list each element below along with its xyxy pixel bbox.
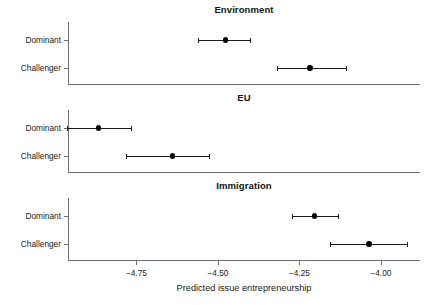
ci-cap-lower [126,154,127,159]
ci-cap-lower [277,66,278,71]
ci-cap-lower [198,38,199,43]
ci-cap-upper [338,214,339,219]
panel-environment: Environment DominantChallenger [0,4,428,92]
y-axis-label-dominant: Dominant [25,211,61,221]
confidence-interval-line [126,156,209,157]
panel-immigration: Immigration DominantChallenger [0,180,428,268]
plot-area-environment: DominantChallenger [68,22,420,84]
y-axis-line [68,110,69,172]
plot-area-eu: DominantChallenger [68,110,420,172]
y-axis-label-dominant: Dominant [25,123,61,133]
ci-cap-upper [407,242,408,247]
y-axis-tick [64,244,68,245]
y-axis-line [68,198,69,260]
ci-cap-lower [67,126,68,131]
x-axis-tick-label: −4.50 [207,268,228,278]
y-axis-label-dominant: Dominant [25,35,61,45]
ci-cap-lower [292,214,293,219]
estimate-point [307,65,313,71]
forest-plot-figure: Environment DominantChallenger EU Domina… [0,0,428,305]
x-axis-tick [299,261,300,265]
estimate-point [96,125,102,131]
x-axis-tick [218,261,219,265]
y-axis-label-challenger: Challenger [21,239,61,249]
ci-cap-upper [346,66,347,71]
estimate-point [223,37,229,43]
x-axis-tick [381,261,382,265]
y-axis-tick [64,68,68,69]
x-axis-tick-label: −4.00 [370,268,391,278]
x-axis-title: Predicted issue entrepreneurship [68,283,420,293]
y-axis-tick [64,216,68,217]
panel-eu: EU DominantChallenger [0,92,428,180]
ci-cap-upper [209,154,210,159]
y-axis-label-challenger: Challenger [21,151,61,161]
panel-title-eu: EU [68,92,420,103]
y-axis-label-challenger: Challenger [21,63,61,73]
estimate-point [366,241,372,247]
panel-baseline [68,260,420,261]
plot-area-immigration: DominantChallenger [68,198,420,260]
ci-cap-lower [330,242,331,247]
ci-cap-upper [250,38,251,43]
estimate-point [312,213,318,219]
panel-title-environment: Environment [68,4,420,15]
y-axis-tick [64,40,68,41]
panel-title-immigration: Immigration [68,180,420,191]
estimate-point [170,153,176,159]
panel-baseline [68,172,420,173]
x-axis-tick [136,261,137,265]
x-axis-tick-label: −4.25 [289,268,310,278]
y-axis-tick [64,156,68,157]
ci-cap-upper [131,126,132,131]
y-axis-line [68,22,69,84]
x-axis-tick-label: −4.75 [126,268,147,278]
panel-baseline [68,84,420,85]
